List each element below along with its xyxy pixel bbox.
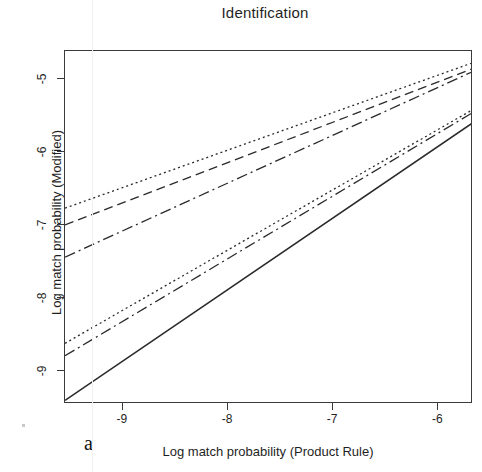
scan-artifact-line [92, 0, 93, 472]
series-line-6 [65, 123, 472, 401]
x-tick-mark [437, 403, 438, 410]
y-tick-label-text: -7 [35, 220, 49, 231]
series-line-5 [65, 112, 472, 355]
x-axis-title: Log match probability (Product Rule) [64, 444, 472, 459]
y-tick-mark [57, 151, 64, 152]
y-tick-mark [57, 224, 64, 225]
y-tick-mark [57, 297, 64, 298]
y-tick-label: -5 [34, 69, 50, 87]
x-tick-mark [122, 403, 123, 410]
chart-title: Identification [0, 4, 482, 21]
plot-area [64, 50, 472, 403]
y-tick-label-text: -9 [35, 366, 49, 377]
x-tick-label: -8 [207, 412, 247, 426]
figure-panel: Identification Log match probability (Mo… [0, 0, 482, 472]
x-tick-label: -9 [102, 412, 142, 426]
y-tick-label: -9 [34, 361, 50, 379]
y-tick-label-text: -8 [35, 293, 49, 304]
y-tick-label-text: -5 [35, 73, 49, 84]
series-layer [65, 51, 472, 403]
x-tick-mark [227, 403, 228, 410]
series-line-1 [65, 63, 472, 208]
y-tick-label: -7 [34, 215, 50, 233]
y-tick-mark [57, 370, 64, 371]
y-tick-label: -8 [34, 288, 50, 306]
x-tick-label: -7 [312, 412, 352, 426]
x-tick-mark [332, 403, 333, 410]
y-axis-title: Log match probability (Modified) [49, 73, 64, 373]
scan-artifact-dot [22, 424, 25, 427]
y-tick-label: -6 [34, 142, 50, 160]
chart-title-text: Identification [221, 4, 308, 21]
y-tick-label-text: -6 [35, 147, 49, 158]
y-tick-mark [57, 78, 64, 79]
series-line-4 [65, 109, 472, 343]
series-line-2 [65, 69, 472, 225]
x-tick-label: -6 [417, 412, 457, 426]
